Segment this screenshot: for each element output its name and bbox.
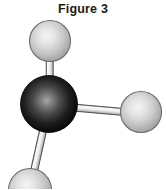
figure-container: Figure 3 — [0, 0, 166, 189]
atom-bottom-left — [9, 169, 52, 190]
atom-right — [121, 92, 162, 133]
central-atom — [21, 76, 78, 133]
molecule-diagram — [0, 0, 166, 189]
atom-top — [30, 21, 71, 62]
